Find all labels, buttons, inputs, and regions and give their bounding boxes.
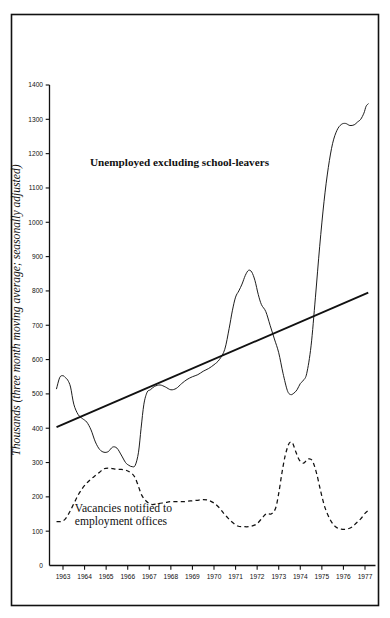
x-axis-tick-label: 1974 (293, 573, 308, 580)
vacancies-label-line-2: employment offices (75, 515, 168, 528)
unemployed-series-label: Unemployed excluding school-leavers (90, 156, 270, 168)
x-axis-tick-label: 1965 (99, 573, 114, 580)
y-axis-tick-label: 1400 (28, 81, 43, 88)
x-axis-tick-label: 1970 (207, 573, 222, 580)
y-axis-tick-label: 400 (32, 425, 43, 432)
x-axis-tick-label: 1973 (271, 573, 286, 580)
y-axis-tick-label: 1200 (28, 150, 43, 157)
x-axis-tick-label: 1976 (336, 573, 351, 580)
x-axis-tick-label: 1963 (56, 573, 71, 580)
y-axis-tick-label: 0 (39, 562, 43, 569)
x-axis-tick-labels: 1963196419651966196719681969197019711972… (56, 573, 373, 580)
x-axis-tick-label: 1964 (77, 573, 92, 580)
y-axis-tick-label: 1300 (28, 116, 43, 123)
x-axis-tick-label: 1972 (250, 573, 265, 580)
x-axis-tick-label: 1977 (358, 573, 373, 580)
y-axis-tick-label: 900 (32, 253, 43, 260)
x-axis-tick-label: 1975 (315, 573, 330, 580)
y-axis-title: Thousands (three month moving average; s… (10, 164, 23, 455)
y-axis-tick-label: 1100 (29, 184, 44, 191)
x-axis-tick-label: 1966 (120, 573, 135, 580)
y-axis-tick-label: 500 (32, 390, 43, 397)
y-axis-tick-label: 300 (32, 459, 43, 466)
y-axis-tick-label: 600 (32, 356, 43, 363)
vacancies-series-label: Vacancies notified to employment offices (75, 502, 172, 528)
x-axis-tick-label: 1969 (185, 573, 200, 580)
y-axis-tick-label: 1000 (28, 219, 43, 226)
y-axis-tick-label: 200 (32, 493, 43, 500)
x-axis-tick-label: 1967 (142, 573, 157, 580)
unemployment-vacancies-chart: 0100200300400500600700800900100011001200… (0, 0, 390, 618)
y-axis-tick-label: 700 (32, 322, 43, 329)
x-axis-tick-label: 1968 (164, 573, 179, 580)
x-axis-tick-label: 1971 (228, 573, 243, 580)
y-axis-tick-label: 800 (32, 287, 43, 294)
vacancies-label-line-1: Vacancies notified to (75, 502, 172, 515)
y-axis-tick-label: 100 (32, 528, 43, 535)
